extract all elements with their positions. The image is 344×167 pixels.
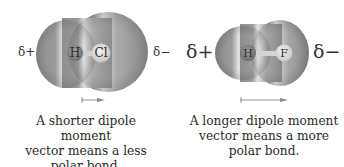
caption-line: polar bond. bbox=[188, 144, 340, 159]
hf-panel: δ+ δ− H F A longer dipole moment vector … bbox=[172, 0, 344, 167]
partial-negative-label: δ− bbox=[153, 46, 170, 58]
partial-positive-label: δ+ bbox=[186, 42, 213, 61]
caption-line: A longer dipole moment bbox=[188, 114, 340, 129]
dipole-arrow-short bbox=[81, 97, 105, 103]
caption-line: polar bond. bbox=[12, 159, 160, 167]
hcl-panel: δ+ δ− H Cl A shorter dipole moment vecto… bbox=[0, 0, 172, 167]
dipole-arrow-long bbox=[240, 97, 288, 103]
partial-positive-label: δ+ bbox=[18, 46, 35, 58]
hcl-caption: A shorter dipole moment vector means a l… bbox=[12, 114, 160, 167]
caption-line: vector means a less bbox=[12, 144, 160, 159]
h-atom-label: H bbox=[70, 47, 80, 59]
h-atom-label: H bbox=[243, 48, 253, 59]
f-atom-label: F bbox=[280, 48, 288, 59]
hf-caption: A longer dipole moment vector means a mo… bbox=[188, 114, 340, 159]
caption-line: A shorter dipole moment bbox=[12, 114, 160, 144]
caption-line: vector means a more bbox=[188, 129, 340, 144]
partial-negative-label: δ− bbox=[313, 42, 340, 61]
cl-atom-label: Cl bbox=[94, 47, 107, 59]
